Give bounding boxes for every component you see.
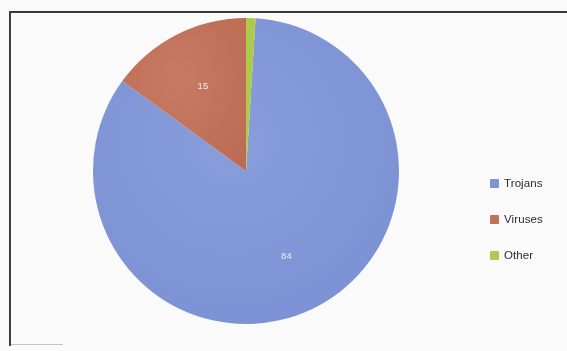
legend-label-other: Other bbox=[504, 249, 533, 261]
legend-swatch-other-icon bbox=[490, 251, 499, 260]
legend-label-viruses: Viruses bbox=[504, 213, 543, 225]
legend-label-trojans: Trojans bbox=[504, 177, 543, 189]
legend-item-other[interactable]: Other bbox=[490, 237, 567, 273]
legend-swatch-viruses-icon bbox=[490, 215, 499, 224]
chart-legend: Trojans Viruses Other bbox=[490, 165, 567, 273]
legend-item-trojans[interactable]: Trojans bbox=[490, 165, 567, 201]
pie-chart-plot-area: 84 15 Trojans Viruses Other bbox=[11, 13, 567, 351]
scanned-page-frame: 84 15 Trojans Viruses Other bbox=[0, 0, 567, 351]
pie-svg: 84 15 bbox=[93, 18, 399, 324]
pie-slice-label-trojans: 84 bbox=[281, 250, 292, 261]
pie-graphic: 84 15 bbox=[93, 18, 399, 351]
legend-swatch-trojans-icon bbox=[490, 179, 499, 188]
pie-slice-label-viruses: 15 bbox=[198, 80, 209, 91]
legend-item-viruses[interactable]: Viruses bbox=[490, 201, 567, 237]
